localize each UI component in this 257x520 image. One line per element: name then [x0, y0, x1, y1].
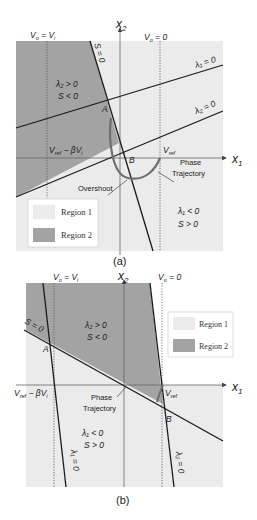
- point-a-label: A: [101, 104, 108, 114]
- region2-condition-2-b: S < 0: [87, 332, 107, 342]
- caption-a: (a): [113, 255, 126, 267]
- region1-condition-1-b: λ₁ < 0: [81, 428, 104, 438]
- x1-axis-label: x1: [231, 152, 242, 168]
- legend-swatch-region2: [33, 228, 55, 242]
- legend-swatch-region1: [33, 205, 55, 219]
- phase-plane-diagram: Region 1 Region 2 x2 x1 Vo = Vi Vo = 0 S…: [0, 0, 257, 520]
- region1-condition-1: λ₁ < 0: [177, 206, 200, 216]
- vref-minus-beta-vi-label: Vref − βVi: [49, 145, 83, 156]
- panel-b: Region 1 Region 2 x2 x1 Vo = Vi Vo = 0 S…: [14, 269, 242, 506]
- legend-region1-label: Region 1: [61, 207, 92, 217]
- x2-axis-label-b: x2: [117, 269, 129, 285]
- region2-condition-2: S < 0: [58, 91, 78, 101]
- overshoot-label: Overshoot: [78, 184, 114, 193]
- panel-a: Region 1 Region 2 x2 x1 Vo = Vi Vo = 0 S…: [16, 17, 242, 267]
- vo-zero-label: Vo = 0: [144, 32, 167, 43]
- phase-trajectory-label-1: Phase: [180, 158, 201, 167]
- region1-condition-2-b: S > 0: [84, 440, 104, 450]
- legend-region2-label-b: Region 2: [199, 342, 228, 351]
- region2-condition-1: λ₂ > 0: [55, 79, 78, 89]
- phase-trajectory-label-2-b: Trajectory: [83, 404, 116, 413]
- vo-vi-label-b: Vo = Vi: [53, 272, 79, 283]
- phase-trajectory-label-2: Trajectory: [172, 169, 205, 178]
- vref-minus-beta-vi-label-b: Vref − βVi: [14, 388, 48, 399]
- caption-b: (b): [116, 494, 129, 506]
- point-a-label-b: A: [42, 344, 49, 354]
- legend-region2-label: Region 2: [61, 230, 92, 240]
- legend-region1-label-b: Region 1: [199, 320, 228, 329]
- x1-axis-label-b: x1: [231, 380, 242, 396]
- vo-zero-label-b: Vo = 0: [158, 272, 181, 283]
- x2-axis-label: x2: [115, 17, 127, 33]
- legend-swatch-region2-b: [173, 339, 195, 352]
- legend-swatch-region1-b: [173, 317, 195, 330]
- vo-vi-label: Vo = Vi: [30, 30, 56, 41]
- region2-condition-1-b: λ₂ > 0: [84, 320, 107, 330]
- point-b-label-b: B: [166, 414, 172, 424]
- point-b-label: B: [129, 155, 135, 165]
- phase-trajectory-label-1-b: Phase: [91, 393, 112, 402]
- region1-condition-2: S > 0: [178, 219, 198, 229]
